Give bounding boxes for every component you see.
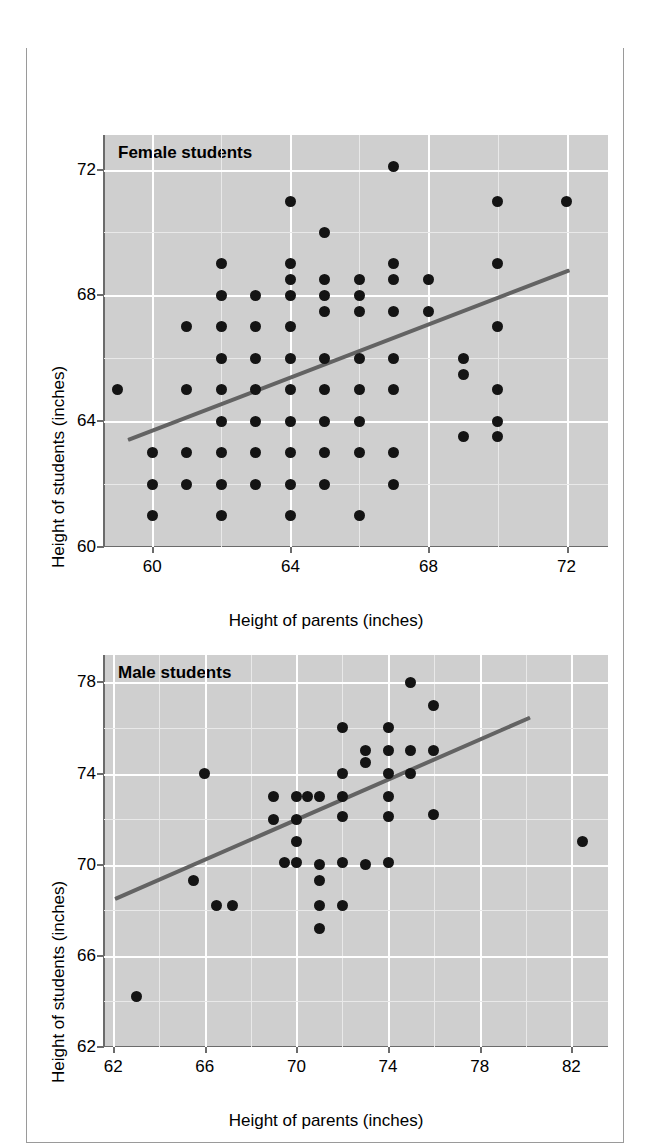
- data-point: [291, 791, 302, 802]
- gridline-horizontal: [104, 484, 608, 485]
- gridline-horizontal: [104, 819, 608, 820]
- data-point: [227, 900, 238, 911]
- gridline-horizontal: [104, 1001, 608, 1002]
- data-point: [423, 274, 434, 285]
- data-point: [383, 791, 394, 802]
- data-point: [285, 290, 296, 301]
- data-point: [314, 875, 325, 886]
- data-point: [147, 447, 158, 458]
- data-point: [458, 353, 469, 364]
- x-axis-tick-mark: [296, 1047, 298, 1053]
- data-point: [216, 416, 227, 427]
- gridline-vertical: [526, 655, 527, 1047]
- y-axis-tick-mark: [97, 681, 104, 683]
- y-axis-tick-label: 62: [52, 1037, 96, 1057]
- data-point: [319, 274, 330, 285]
- gridline-horizontal: [104, 547, 608, 549]
- data-point: [211, 900, 222, 911]
- data-point: [492, 384, 503, 395]
- data-point: [319, 384, 330, 395]
- x-axis-tick-label: 66: [175, 1057, 235, 1077]
- data-point: [383, 745, 394, 756]
- data-point: [337, 768, 348, 779]
- data-point: [268, 791, 279, 802]
- data-point: [285, 384, 296, 395]
- data-point: [561, 196, 572, 207]
- data-point: [268, 814, 279, 825]
- data-point: [337, 900, 348, 911]
- gridline-horizontal: [104, 1047, 608, 1049]
- x-axis-tick-label: 74: [358, 1057, 418, 1077]
- x-axis-label-male: Height of parents (inches): [27, 1111, 625, 1131]
- gridline-horizontal: [104, 170, 608, 172]
- data-point: [405, 768, 416, 779]
- y-axis-tick-mark: [97, 169, 104, 171]
- data-point: [360, 859, 371, 870]
- y-axis-tick-label: 60: [52, 537, 96, 557]
- x-axis-tick-label: 70: [266, 1057, 326, 1077]
- data-point: [423, 306, 434, 317]
- data-point: [354, 510, 365, 521]
- data-point: [319, 227, 330, 238]
- data-point: [492, 196, 503, 207]
- x-axis-tick-mark: [428, 547, 430, 553]
- data-point: [405, 677, 416, 688]
- y-axis-line-male: [103, 655, 105, 1047]
- data-point: [360, 757, 371, 768]
- x-axis-label-female: Height of parents (inches): [27, 611, 625, 631]
- panel-male-students: Height of students (inches) Male student…: [27, 643, 625, 1143]
- data-point: [181, 447, 192, 458]
- data-point: [314, 923, 325, 934]
- data-point: [388, 274, 399, 285]
- y-axis-tick-label: 68: [52, 285, 96, 305]
- gridline-horizontal: [104, 956, 608, 958]
- data-point: [388, 447, 399, 458]
- data-point: [458, 431, 469, 442]
- data-point: [147, 479, 158, 490]
- x-axis-tick-label: 60: [122, 557, 182, 577]
- data-point: [250, 321, 261, 332]
- data-point: [319, 416, 330, 427]
- data-point: [337, 857, 348, 868]
- data-point: [285, 447, 296, 458]
- data-point: [302, 791, 313, 802]
- data-point: [354, 274, 365, 285]
- data-point: [216, 479, 227, 490]
- data-point: [285, 479, 296, 490]
- gridline-vertical: [251, 655, 252, 1047]
- data-point: [405, 745, 416, 756]
- data-point: [354, 290, 365, 301]
- y-axis-tick-label: 72: [52, 160, 96, 180]
- data-point: [314, 859, 325, 870]
- data-point: [388, 384, 399, 395]
- data-point: [216, 384, 227, 395]
- gridline-vertical: [342, 655, 343, 1047]
- gridline-vertical: [480, 655, 482, 1047]
- data-point: [337, 791, 348, 802]
- y-axis-tick-mark: [97, 546, 104, 548]
- data-point: [319, 290, 330, 301]
- data-point: [492, 321, 503, 332]
- data-point: [250, 290, 261, 301]
- data-point: [291, 857, 302, 868]
- data-point: [314, 900, 325, 911]
- y-axis-tick-label: 70: [52, 855, 96, 875]
- data-point: [319, 447, 330, 458]
- panel-label-male: Male students: [118, 663, 231, 683]
- y-axis-tick-mark: [97, 773, 104, 775]
- data-point: [492, 416, 503, 427]
- gridline-horizontal: [104, 774, 608, 776]
- data-point: [388, 258, 399, 269]
- data-point: [216, 321, 227, 332]
- data-point: [319, 306, 330, 317]
- data-point: [147, 510, 158, 521]
- data-point: [250, 479, 261, 490]
- data-point: [354, 447, 365, 458]
- gridline-horizontal: [104, 910, 608, 911]
- data-point: [388, 306, 399, 317]
- y-axis-tick-label: 78: [52, 672, 96, 692]
- x-axis-tick-mark: [290, 547, 292, 553]
- data-point: [428, 700, 439, 711]
- x-axis-tick-label: 62: [83, 1057, 143, 1077]
- data-point: [314, 791, 325, 802]
